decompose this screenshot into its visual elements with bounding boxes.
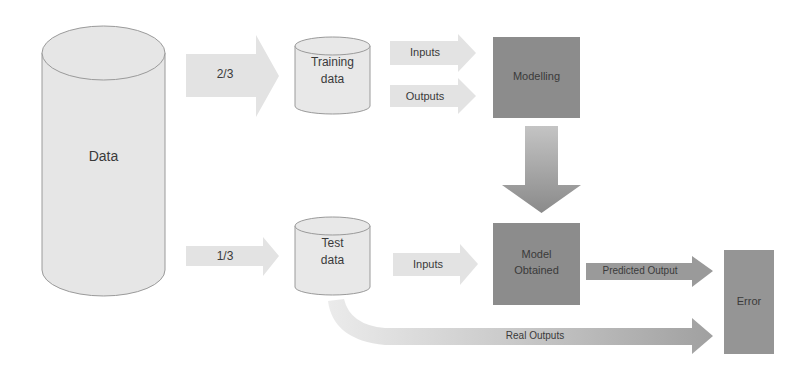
- real-outputs-arrow: [328, 299, 713, 354]
- error-label: Error: [724, 295, 774, 307]
- model-obtained-label-line1: Model: [493, 248, 580, 260]
- training-data-label-line2: data: [295, 72, 370, 86]
- test-data-label-line1: Test: [295, 236, 370, 250]
- test-data-label-line2: data: [295, 253, 370, 267]
- model-obtained-label-line2: Obtained: [493, 264, 580, 276]
- data-label: Data: [42, 148, 165, 164]
- train-inputs-label: Inputs: [390, 46, 460, 58]
- train-outputs-label: Outputs: [390, 90, 460, 102]
- real-outputs-label: Real Outputs: [480, 330, 590, 341]
- training-data-label-line1: Training: [295, 55, 370, 69]
- test-inputs-label: Inputs: [393, 258, 463, 270]
- model-down-arrow: [502, 126, 581, 213]
- split-test-label: 1/3: [190, 249, 260, 263]
- predicted-output-label: Predicted Output: [590, 265, 690, 276]
- split-train-label: 2/3: [190, 67, 260, 81]
- modelling-label: Modelling: [493, 70, 580, 82]
